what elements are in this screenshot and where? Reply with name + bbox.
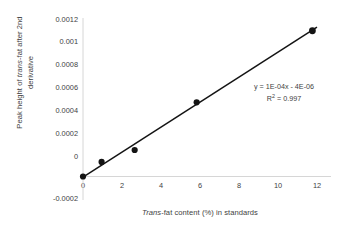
data-point-marker [132,147,138,153]
data-point-marker [80,173,86,179]
plot-area [0,0,344,229]
r-squared-value: = 0.997 [275,94,301,103]
data-point-marker [309,27,316,34]
trendline-equation: y = 1E-04x - 4E-06 [254,82,314,91]
data-point-marker [194,99,200,105]
trendline-equation-annotation: y = 1E-04x - 4E-06 R2 = 0.997 [232,82,336,103]
chart-container: Peak height of trans-fat after 2nd deriv… [0,0,344,229]
data-point-marker [99,159,105,165]
